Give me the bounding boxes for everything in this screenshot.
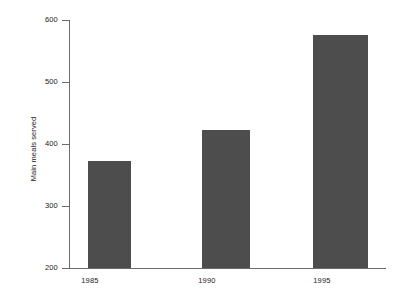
y-axis-tick: 500 (62, 82, 69, 83)
bar-1995[interactable] (313, 35, 368, 268)
y-axis-tick: 400 (62, 144, 69, 145)
x-axis-label-1985: 1985 (68, 276, 112, 285)
y-axis-title: Main meals served (26, 0, 42, 298)
x-axis-line (69, 268, 386, 269)
bar-1985[interactable] (88, 161, 131, 268)
bar-1990[interactable] (202, 130, 250, 268)
y-axis-tick-label: 200 (45, 263, 58, 272)
y-axis-tick: 600 (62, 20, 69, 21)
y-axis-tick: 300 (62, 206, 69, 207)
y-axis-tick-label: 400 (45, 139, 58, 148)
x-axis-label-1995: 1995 (293, 276, 351, 285)
y-axis-tick-label: 500 (45, 77, 58, 86)
y-axis-tick: 200 (62, 268, 69, 269)
x-axis-label-1990: 1990 (180, 276, 234, 285)
y-axis-tick-label: 600 (45, 15, 58, 24)
y-axis-tick-label: 300 (45, 201, 58, 210)
plot-area (69, 20, 385, 268)
bar-chart: Main meals served 600 500 400 300 200 19… (0, 0, 407, 298)
